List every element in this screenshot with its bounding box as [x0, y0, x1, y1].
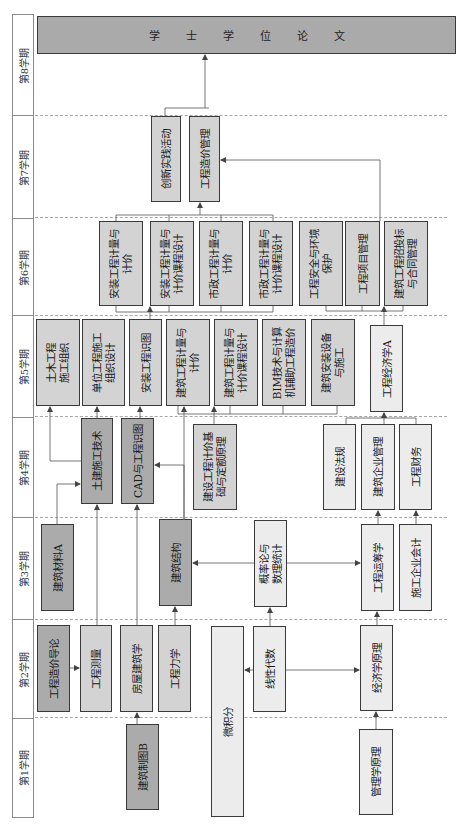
semester-label-6: 第6学期 [12, 218, 34, 317]
course-project-management: 工程项目管理 [345, 221, 380, 306]
course-innovation-practice: 创新实践活动 [151, 116, 181, 202]
course-building-measure-design: 建筑工程计量与 计价课程设计 [214, 319, 258, 406]
course-safety-environment: 工程安全与环境 保护 [299, 221, 343, 306]
course-building-architecture: 房屋建筑学 [120, 625, 153, 712]
course-install-measure: 安装工程计量与 计价 [99, 221, 143, 306]
course-engineering-mechanics: 工程力学 [158, 625, 191, 712]
course-building-measure: 建筑工程计量与 计价 [166, 319, 210, 406]
course-economics-principles: 经济学原理 [360, 625, 393, 711]
course-construction-organization: 土木工程 施工组织 [36, 319, 80, 406]
semester-label-4: 第4学期 [12, 417, 34, 519]
course-construction-law: 建设法规 [323, 424, 356, 510]
course-building-structure: 建筑结构 [159, 519, 192, 606]
divider-3-2 [35, 619, 447, 620]
course-building-materials: 建筑材料A [41, 524, 74, 611]
course-engineering-finance: 工程财务 [399, 424, 432, 510]
course-surveying: 工程测量 [80, 625, 112, 712]
course-management-principles: 管理学原理 [359, 729, 393, 815]
course-engineering-economics: 工程经济学A [370, 325, 403, 412]
curriculum-flowchart: 第8学期 第7学期 第6学期 第5学期 第4学期 第3学期 第2学期 第1学期 … [0, 0, 467, 832]
course-linear-algebra: 线性代数 [253, 626, 286, 712]
course-bim-cost: BIM技术与计算 机辅助工程造价 [262, 319, 306, 406]
course-civil-construction-tech: 土建施工技术 [81, 418, 113, 504]
course-municipal-measure-design: 市政工程计量与 计价课程设计 [249, 221, 293, 306]
semester-label-8: 第8学期 [12, 14, 34, 117]
course-cad-drawing: CAD与工程识图 [121, 418, 154, 504]
course-pricing-quota: 建设工程计价基 础与定额原理 [193, 424, 237, 510]
course-municipal-measure: 市政工程计量与 计价 [199, 221, 243, 306]
divider-7-6 [35, 217, 447, 218]
thesis-box: 学 士 学 位 论 文 [37, 16, 456, 54]
course-cost-introduction: 工程造价导论 [37, 625, 70, 712]
divider-8-7 [35, 115, 447, 116]
semester-label-3: 第3学期 [12, 517, 34, 621]
course-install-drawing: 安装工程识图 [129, 319, 162, 406]
course-enterprise-management: 建筑企业管理 [361, 424, 395, 510]
course-unit-organization-design: 单位工程施工 组织设计 [82, 319, 125, 406]
course-install-measure-design: 安装工程计量与 计价课程设计 [150, 221, 194, 306]
semester-label-1: 第1学期 [12, 718, 34, 818]
course-probability-statistics: 概率论与 数理统计 [254, 520, 287, 607]
divider-5-4 [35, 416, 447, 417]
thesis-label: 学 士 学 位 论 文 [38, 27, 455, 43]
course-cost-management: 工程造价管理 [189, 116, 220, 202]
semester-label-2: 第2学期 [12, 619, 34, 720]
course-construction-accounting: 施工企业会计 [399, 524, 432, 611]
course-bidding-contract: 建筑工程招投标 与合同管理 [384, 221, 428, 306]
semester-label-7: 第7学期 [12, 115, 34, 220]
course-install-equipment: 建筑安装设备 与施工 [311, 319, 355, 406]
course-operations-research: 工程运筹学 [361, 524, 394, 611]
divider-4-3 [35, 517, 447, 518]
course-calculus: 微积分 [211, 626, 244, 817]
semester-label-5: 第5学期 [12, 315, 34, 419]
course-architectural-drawing: 建筑制图B [126, 724, 159, 810]
divider-6-5 [35, 315, 447, 316]
